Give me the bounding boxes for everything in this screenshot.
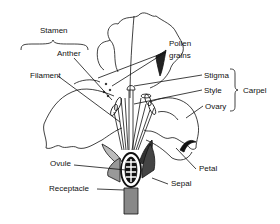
receptacle [124,188,138,214]
leader-anther [74,58,112,100]
label-style: Style [204,86,222,95]
leader-ovary [186,106,203,118]
label-carpel: Carpel [243,86,267,95]
leader-stigma [134,75,202,86]
leader-receptacle [97,189,124,190]
carpel-brace [230,69,238,111]
label-petal: Petal [199,164,217,173]
style [129,90,133,150]
leader-sepal [152,178,168,184]
label-stamen: Stamen [40,26,68,35]
label-pollen-line1: Pollen [169,39,191,48]
label-ovary: Ovary [205,102,226,111]
label-anther: Anther [57,49,81,58]
flower-diagram: Stamen Anther Filament Pollen grains Sti… [0,0,280,224]
label-stigma: Stigma [204,71,229,80]
label-sepal: Sepal [171,179,191,188]
leader-style [134,90,202,104]
label-filament: Filament [30,71,61,80]
label-receptacle: Receptacle [49,184,89,193]
leader-petal [176,148,196,169]
label-ovule: Ovule [50,159,71,168]
leader-pollen-1 [98,52,166,78]
label-pollen-line2: grains [169,51,191,60]
stigma [127,86,135,91]
